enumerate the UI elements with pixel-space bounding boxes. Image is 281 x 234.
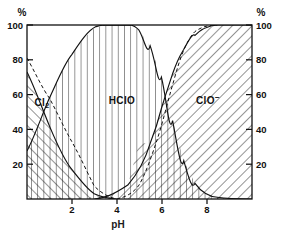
x-tick-6: 6 — [159, 204, 164, 215]
series-label-cl2: Cl2 — [34, 97, 49, 109]
y-tick-right-40: 40 — [256, 124, 267, 135]
x-axis-labels: 2 4 6 8 — [69, 204, 209, 215]
y-tick-right-100: 100 — [256, 20, 272, 31]
chlorine-speciation-chart: 100 80 60 40 20 100 80 60 40 20 2 4 6 8 … — [0, 0, 281, 234]
y-axis-unit-left: % — [18, 7, 27, 18]
y-tick-left-100: 100 — [7, 20, 23, 31]
y-tick-left-40: 40 — [12, 124, 23, 135]
series-label-hclo: HClO — [109, 95, 136, 106]
y-tick-left-80: 80 — [12, 54, 23, 65]
x-tick-8: 8 — [204, 204, 209, 215]
y-axis-right-labels: 100 80 60 40 20 — [256, 20, 272, 170]
y-tick-left-20: 20 — [12, 159, 23, 170]
y-tick-right-60: 60 — [256, 89, 267, 100]
y-tick-left-60: 60 — [12, 89, 23, 100]
y-tick-right-20: 20 — [256, 159, 267, 170]
y-tick-right-80: 80 — [256, 54, 267, 65]
x-tick-4: 4 — [114, 204, 120, 215]
x-axis-title: pH — [111, 219, 125, 230]
y-axis-left-labels: 100 80 60 40 20 — [7, 20, 23, 170]
chart-canvas: 100 80 60 40 20 100 80 60 40 20 2 4 6 8 … — [0, 0, 281, 234]
region-fills — [27, 25, 252, 199]
x-tick-2: 2 — [69, 204, 74, 215]
y-axis-unit-right: % — [257, 7, 266, 18]
